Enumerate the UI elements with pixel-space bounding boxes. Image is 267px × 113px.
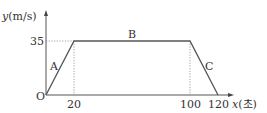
x-tick-100: 100: [180, 99, 201, 110]
y-axis-arrow-icon: [44, 10, 48, 16]
segment-label-c: C: [205, 61, 213, 72]
y-axis-unit: (m/s): [8, 10, 36, 23]
x-axis-arrow-icon: [228, 93, 234, 97]
segment-label-b: B: [128, 29, 136, 40]
segment-label-a: A: [50, 61, 58, 72]
x-axis-unit: (초): [238, 98, 257, 111]
y-axis-label: y(m/s): [2, 11, 37, 22]
velocity-line: [46, 41, 218, 95]
x-axis-label: x(초): [232, 99, 257, 110]
x-tick-20: 20: [67, 99, 81, 110]
y-tick-35: 35: [30, 36, 44, 47]
x-tick-120: 120: [208, 99, 229, 110]
origin-label: O: [36, 91, 45, 102]
